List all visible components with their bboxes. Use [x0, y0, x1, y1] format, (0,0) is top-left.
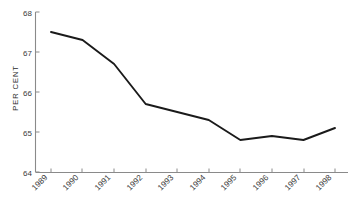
x-axis-tick-marks [51, 169, 335, 173]
x-tick-label-1990: 1990 [61, 173, 81, 193]
y-tick-label-68: 68 [23, 9, 32, 18]
y-tick-label-66: 66 [23, 89, 32, 98]
y-tick-label-65: 65 [23, 129, 32, 138]
y-tick-label-67: 67 [23, 49, 32, 58]
line-chart-canvas: PER CENT 68 67 66 65 64 [0, 0, 362, 207]
x-tick-label-1998: 1998 [314, 173, 334, 193]
chart-figure: PER CENT 68 67 66 65 64 [0, 0, 362, 207]
x-tick-label-1993: 1993 [156, 173, 176, 193]
x-tick-label-1996: 1996 [251, 173, 271, 193]
x-tick-label-1997: 1997 [283, 173, 303, 193]
x-tick-label-1991: 1991 [93, 173, 113, 193]
y-axis-tick-marks [36, 12, 40, 172]
y-axis-tick-labels: 68 67 66 65 64 [23, 9, 32, 178]
x-tick-label-1995: 1995 [219, 173, 239, 193]
data-series-line [51, 32, 335, 140]
x-tick-label-1992: 1992 [125, 173, 145, 193]
x-tick-label-1989: 1989 [30, 173, 50, 193]
y-axis-title: PER CENT [11, 65, 20, 111]
x-tick-label-1994: 1994 [188, 173, 208, 193]
y-axis-title-group: PER CENT [11, 65, 20, 111]
y-tick-label-64: 64 [23, 169, 32, 178]
x-axis-tick-labels: 1989 1990 1991 1992 1993 1994 1995 1996 … [30, 173, 334, 193]
